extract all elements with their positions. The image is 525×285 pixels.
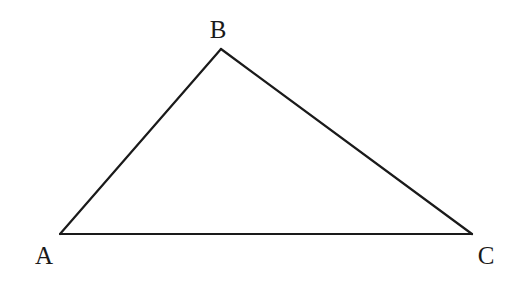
vertex-label-c: C	[478, 242, 495, 269]
edge-bc	[221, 49, 472, 234]
edge-ab	[60, 49, 221, 234]
triangle-diagram: A B C	[0, 0, 525, 285]
vertex-label-a: A	[35, 242, 53, 269]
vertex-label-b: B	[210, 16, 227, 43]
